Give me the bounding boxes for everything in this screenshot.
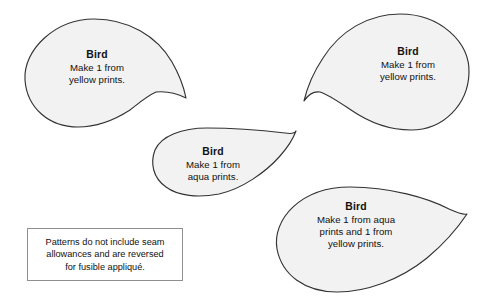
- pattern-note-line-3: for fusible appliqué.: [46, 261, 165, 273]
- pattern-note-line-1: Patterns do not include seam: [46, 236, 165, 248]
- pattern-note-line-2: allowances and are reversed: [46, 248, 165, 260]
- pattern-piece-2-outline[interactable]: [304, 14, 469, 130]
- pattern-piece-4-outline[interactable]: [276, 187, 467, 292]
- pattern-piece-1-outline[interactable]: [25, 19, 186, 127]
- pattern-note-text: Patterns do not include seam allowances …: [41, 236, 170, 273]
- pattern-sheet: Bird Make 1 from yellow prints. Bird Mak…: [0, 0, 497, 303]
- pattern-note-box: Patterns do not include seam allowances …: [27, 228, 183, 281]
- pattern-piece-3-outline[interactable]: [153, 128, 296, 196]
